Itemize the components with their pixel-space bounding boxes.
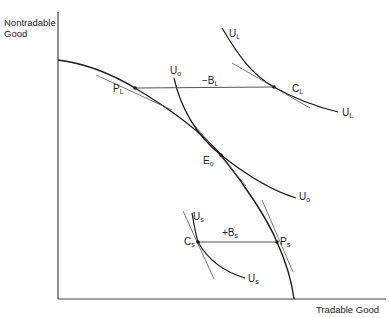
- label-Eo: Eo: [203, 156, 214, 167]
- point-Ps: [275, 240, 279, 244]
- indifference-curve-UL: [222, 28, 338, 112]
- label-Us-top: Us: [193, 212, 204, 223]
- label-Bs: +Bs: [222, 228, 238, 239]
- ppf-curve: [58, 60, 294, 299]
- label-UL-right: UL: [342, 108, 353, 119]
- label-BL: −BL: [202, 76, 218, 87]
- point-CL: [272, 85, 276, 89]
- point-PL: [133, 86, 137, 90]
- label-Uo-top: Uo: [170, 66, 181, 77]
- point-Cs: [196, 240, 200, 244]
- label-Us-bottom: Us: [248, 274, 259, 285]
- label-Ps: Ps: [280, 237, 290, 248]
- label-UL-top: UL: [229, 29, 240, 40]
- label-Uo-right: Uo: [299, 192, 310, 203]
- point-Eo: [219, 153, 223, 157]
- label-CL: CL: [292, 84, 303, 95]
- indifference-curve-Uo: [174, 78, 296, 198]
- borrowing-line-BL: [135, 87, 274, 88]
- label-Cs: Cs: [184, 237, 195, 248]
- price-line-PL: [96, 75, 172, 110]
- label-PL: PL: [113, 84, 124, 95]
- price-line-Ps: [262, 200, 293, 272]
- diagram: Nontradable Good Tradable Good: [0, 0, 389, 318]
- diagram-canvas: [0, 0, 389, 318]
